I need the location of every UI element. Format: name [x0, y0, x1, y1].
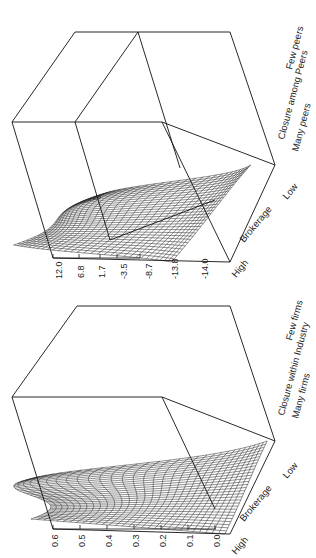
z-tick: 0.3 [131, 534, 141, 547]
surface-plot-industry-svg: 0.6 0.5 0.4 0.3 0.2 0.1 0.0 High Brokera… [0, 279, 316, 558]
surface-plot-peers: 12.0 6.8 1.7 -3.5 -8.7 -13.8 -14.0 High … [0, 0, 316, 279]
z-tick: 1.7 [97, 265, 107, 278]
z-tick: 12.0 [54, 261, 64, 279]
surface-plot-peers-svg: 12.0 6.8 1.7 -3.5 -8.7 -13.8 -14.0 High … [0, 0, 316, 279]
surface-plot-industry: 0.6 0.5 0.4 0.3 0.2 0.1 0.0 High Brokera… [0, 279, 316, 558]
brokerage-axis-label: Brokerage [237, 483, 274, 524]
z-tick: 0.5 [77, 534, 87, 547]
brokerage-high-label: High [229, 257, 250, 279]
brokerage-high-label: High [229, 534, 250, 556]
brokerage-low-label: Low [280, 181, 300, 202]
surface-mesh [14, 441, 267, 534]
z-tick: 0.0 [212, 534, 222, 547]
z-tick: -8.7 [144, 263, 154, 279]
z-tick: -3.5 [119, 263, 129, 279]
z-tick: 0.6 [50, 534, 60, 547]
z-tick: 6.8 [76, 265, 86, 278]
z-tick: 0.1 [185, 534, 195, 547]
surface-mesh [14, 165, 251, 262]
brokerage-low-label: Low [280, 460, 300, 481]
brokerage-axis-label: Brokerage [237, 204, 274, 245]
z-axis [53, 254, 140, 258]
z-tick: -13.8 [170, 258, 180, 279]
z-tick: 0.4 [104, 534, 114, 547]
z-tick: -14.0 [200, 258, 210, 279]
z-tick: 0.2 [158, 534, 168, 547]
